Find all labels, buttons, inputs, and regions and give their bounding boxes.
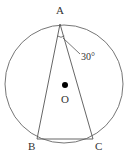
angle-label: 30° — [81, 51, 95, 62]
triangle-abc — [37, 24, 93, 139]
label-o: O — [61, 93, 69, 105]
label-a: A — [56, 4, 64, 16]
angle-arc-a — [58, 36, 65, 37]
label-c: C — [95, 140, 102, 150]
center-point-o — [62, 82, 68, 88]
angle-leader-line — [63, 38, 80, 54]
label-b: B — [28, 140, 35, 150]
geometry-diagram: A B C O 30° — [0, 0, 126, 150]
